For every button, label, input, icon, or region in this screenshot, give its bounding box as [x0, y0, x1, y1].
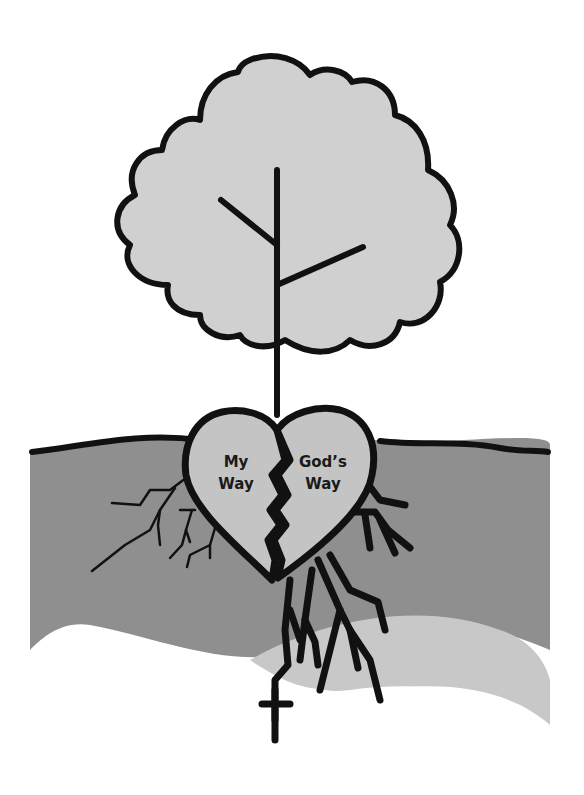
my-way-label-line2: Way [218, 475, 254, 493]
gods-way-label-line1: God’s [299, 453, 347, 471]
my-way-label-line1: My [224, 453, 249, 471]
illustration: My Way God’s Way [0, 0, 584, 795]
tree-canopy [117, 56, 459, 352]
gods-way-label-line2: Way [305, 475, 341, 493]
